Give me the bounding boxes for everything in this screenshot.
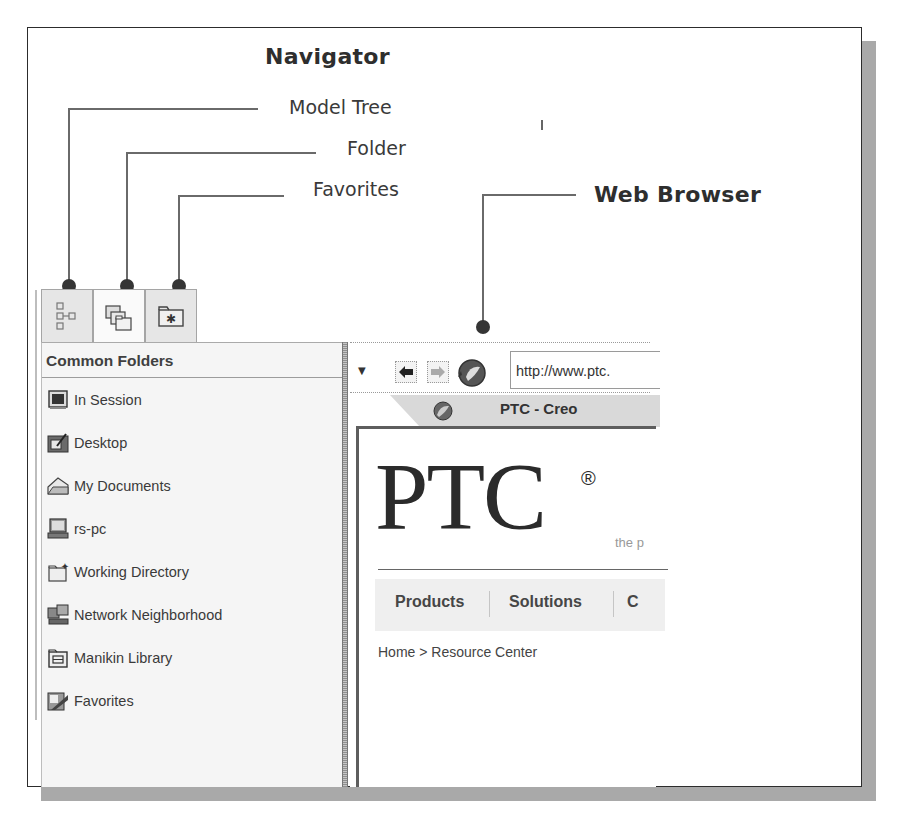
svg-text:✦: ✦ (61, 561, 69, 572)
nav-item-my-documents[interactable]: My Documents (42, 464, 346, 507)
logo-divider (378, 569, 668, 570)
leader-favorites-v (178, 195, 180, 284)
network-icon (47, 604, 69, 626)
tab-model-tree[interactable] (41, 289, 93, 343)
leader-web-browser-dot (476, 320, 490, 334)
common-folders-header: Common Folders (42, 343, 346, 378)
browser-content: PTC ® the p Products Solutions C Home > … (356, 426, 656, 787)
browser-toolbar: ▼ http://www.ptc. (350, 342, 650, 392)
breadcrumb[interactable]: Home > Resource Center (378, 644, 537, 660)
menu-separator (489, 591, 490, 617)
callout-favorites: Favorites (313, 178, 399, 200)
nav-item-manikin-library[interactable]: Manikin Library (42, 636, 346, 679)
callout-model-tree: Model Tree (289, 96, 392, 118)
leader-web-browser-v (482, 194, 484, 324)
callout-folder: Folder (347, 137, 406, 159)
computer-icon (47, 518, 69, 540)
text-cursor-mark (541, 120, 543, 130)
menu-truncated[interactable]: C (627, 593, 639, 611)
leader-model-tree-v (68, 108, 70, 284)
working-directory-icon: ✦ (47, 561, 69, 583)
tab-favorites[interactable]: ✱ (145, 289, 197, 343)
tagline: the p (615, 535, 644, 550)
browser-tab-title: PTC - Creo (500, 400, 578, 417)
manikin-library-icon (47, 647, 69, 669)
callout-web-browser: Web Browser (594, 182, 761, 207)
panel-splitter[interactable] (342, 342, 348, 787)
nav-item-working-directory[interactable]: ✦ Working Directory (42, 550, 346, 593)
tab-folder[interactable] (93, 289, 145, 345)
nav-item-desktop[interactable]: Desktop (42, 421, 346, 464)
nav-item-network-neighborhood[interactable]: Network Neighborhood (42, 593, 346, 636)
site-menu-bar: Products Solutions C (375, 579, 665, 631)
menu-separator (613, 591, 614, 617)
leader-model-tree-h (68, 108, 258, 110)
ptc-logo[interactable]: PTC (375, 449, 545, 545)
favorites-folder-icon: ✱ (156, 303, 186, 329)
favorites-icon (47, 690, 69, 712)
page-globe-icon (432, 400, 454, 422)
my-documents-icon (47, 475, 69, 497)
back-button[interactable] (395, 361, 417, 383)
refresh-globe-icon[interactable] (456, 357, 488, 389)
leader-folder-h (126, 152, 316, 154)
url-input[interactable]: http://www.ptc. (510, 351, 660, 389)
svg-text:✱: ✱ (166, 312, 176, 326)
model-tree-icon (55, 301, 79, 331)
nav-item-rs-pc[interactable]: rs-pc (42, 507, 346, 550)
callout-navigator: Navigator (265, 44, 390, 69)
nav-item-in-session[interactable]: In Session (42, 378, 346, 421)
leader-web-browser-h (482, 194, 576, 196)
in-session-icon (47, 389, 69, 411)
forward-button[interactable] (427, 361, 449, 383)
navigator-left-edge (35, 290, 37, 720)
dropdown-arrow-icon[interactable]: ▼ (358, 365, 366, 376)
nav-item-favorites[interactable]: Favorites (42, 679, 346, 722)
desktop-icon (47, 432, 69, 454)
forward-arrow-icon (431, 366, 445, 378)
menu-solutions[interactable]: Solutions (509, 593, 582, 611)
back-arrow-icon (399, 366, 413, 378)
web-browser: ▼ http://www.ptc. PTC - Creo PTC ® the p… (350, 342, 650, 787)
navigator-panel: Common Folders In Session Desktop My Doc… (41, 342, 346, 787)
folder-browser-icon (104, 303, 134, 333)
registered-mark: ® (581, 467, 596, 490)
navigator-tabs: ✱ (41, 289, 197, 343)
leader-favorites-h (178, 195, 284, 197)
leader-folder-v (126, 152, 128, 284)
menu-products[interactable]: Products (395, 593, 464, 611)
